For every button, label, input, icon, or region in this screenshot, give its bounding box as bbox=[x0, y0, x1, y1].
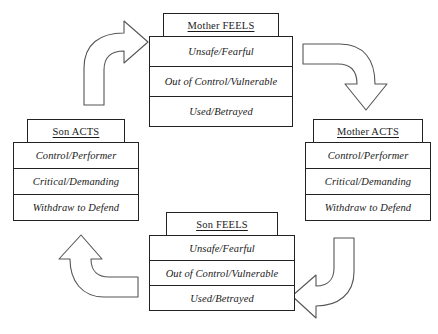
list-item: Unsafe/Fearful bbox=[150, 36, 292, 66]
group-mother-acts-row-3: Withdraw to Defend bbox=[325, 202, 411, 213]
group-son-feels-row-1: Unsafe/Fearful bbox=[189, 243, 255, 254]
list-item: Used/Betrayed bbox=[150, 285, 294, 310]
group-son-feels-body: Unsafe/Fearful Out of Control/Vulnerable… bbox=[149, 235, 295, 311]
group-son-feels-header: Son FEELS bbox=[166, 212, 278, 236]
group-mother-acts-header: Mother ACTS bbox=[313, 119, 423, 143]
arrow-son-feels-to-son-acts-icon bbox=[59, 235, 138, 297]
list-item: Out of Control/Vulnerable bbox=[150, 66, 292, 96]
interaction-cycle-diagram: Mother FEELS Unsafe/Fearful Out of Contr… bbox=[0, 0, 438, 334]
group-mother-feels-row-2: Out of Control/Vulnerable bbox=[165, 76, 278, 87]
group-son-acts-row-3: Withdraw to Defend bbox=[33, 202, 119, 213]
arrow-mother-acts-to-son-feels-icon bbox=[307, 237, 355, 308]
group-son-feels-row-2: Out of Control/Vulnerable bbox=[166, 268, 279, 279]
list-item: Control/Performer bbox=[306, 142, 430, 168]
group-mother-feels-body: Unsafe/Fearful Out of Control/Vulnerable… bbox=[149, 36, 293, 127]
arrow-mother-feels-to-mother-acts-icon bbox=[303, 44, 387, 110]
group-son-acts-body: Control/Performer Critical/Demanding Wit… bbox=[13, 142, 139, 221]
group-son-acts-row-1: Control/Performer bbox=[36, 150, 117, 161]
group-son-acts-header: Son ACTS bbox=[27, 119, 125, 143]
group-son-feels-row-3: Used/Betrayed bbox=[190, 293, 254, 304]
group-mother-feels-header-label: Mother FEELS bbox=[188, 20, 255, 31]
list-item: Unsafe/Fearful bbox=[150, 235, 294, 260]
group-mother-acts-header-label: Mother ACTS bbox=[337, 126, 399, 137]
list-item: Critical/Demanding bbox=[14, 168, 138, 194]
group-mother-feels-header: Mother FEELS bbox=[163, 13, 279, 37]
group-mother-feels-row-1: Unsafe/Fearful bbox=[188, 46, 254, 57]
arrow-son-acts-to-mother-feels-icon bbox=[84, 21, 148, 105]
list-item: Withdraw to Defend bbox=[14, 194, 138, 220]
group-son-feels-header-label: Son FEELS bbox=[196, 219, 248, 230]
group-mother-acts-row-1: Control/Performer bbox=[328, 150, 409, 161]
list-item: Critical/Demanding bbox=[306, 168, 430, 194]
list-item: Used/Betrayed bbox=[150, 96, 292, 126]
list-item: Withdraw to Defend bbox=[306, 194, 430, 220]
group-son-acts-row-2: Critical/Demanding bbox=[33, 176, 119, 187]
group-mother-acts-row-2: Critical/Demanding bbox=[325, 176, 411, 187]
list-item: Control/Performer bbox=[14, 142, 138, 168]
group-mother-feels-row-3: Used/Betrayed bbox=[189, 106, 253, 117]
group-mother-acts-body: Control/Performer Critical/Demanding Wit… bbox=[305, 142, 431, 221]
group-son-acts-header-label: Son ACTS bbox=[53, 126, 100, 137]
list-item: Out of Control/Vulnerable bbox=[150, 260, 294, 285]
arrow-mother-acts-to-son-feels-body-icon bbox=[292, 238, 354, 318]
